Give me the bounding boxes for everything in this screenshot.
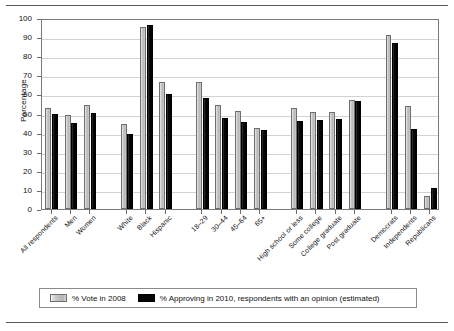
y-tick-label: 0	[2, 206, 32, 214]
x-tick-mark	[296, 210, 297, 214]
x-tick-label: 65+	[254, 214, 268, 228]
bar-approving-2010	[166, 94, 172, 209]
bar-vote-2008	[45, 108, 51, 209]
bar-approving-2010	[355, 101, 361, 209]
bar-approving-2010	[261, 130, 267, 209]
bar-approving-2010	[127, 134, 133, 209]
x-tick-mark	[391, 210, 392, 214]
bar-vote-2008	[196, 82, 202, 209]
y-tick-label: 10	[2, 187, 32, 195]
bar-vote-2008	[310, 112, 316, 209]
bar-approving-2010	[91, 113, 97, 209]
x-tick-mark	[240, 210, 241, 214]
bars-layer	[42, 20, 438, 209]
legend-item-approve: % Approving in 2010, respondents with an…	[138, 294, 380, 303]
y-tick-label: 70	[2, 72, 32, 80]
bar-vote-2008	[386, 35, 392, 209]
legend: % Vote in 2008 % Approving in 2010, resp…	[39, 288, 417, 308]
y-tick-label: 30	[2, 149, 32, 157]
bar-vote-2008	[291, 108, 297, 209]
x-tick-label: All respondents	[18, 214, 58, 254]
x-tick-mark	[315, 210, 316, 214]
bottom-divider	[6, 322, 448, 323]
legend-swatch-vote-icon	[50, 294, 67, 302]
x-tick-mark	[126, 210, 127, 214]
legend-swatch-approve-icon	[138, 294, 155, 302]
x-tick-label: Women	[75, 214, 97, 236]
legend-label-approve: % Approving in 2010, respondents with an…	[160, 294, 380, 303]
x-tick-mark	[145, 210, 146, 214]
bar-vote-2008	[349, 100, 355, 209]
y-tick-label: 60	[2, 91, 32, 99]
x-tick-mark	[51, 210, 52, 214]
x-tick-mark	[89, 210, 90, 214]
bar-vote-2008	[254, 128, 260, 209]
x-tick-mark	[410, 210, 411, 214]
bar-vote-2008	[159, 82, 165, 209]
x-tick-label: 30–44	[210, 214, 229, 233]
y-tick-label: 40	[2, 130, 32, 138]
bar-approving-2010	[203, 98, 209, 209]
x-tick-label: 18–29	[190, 214, 209, 233]
x-tick-label: Men	[63, 214, 78, 229]
bar-approving-2010	[241, 122, 247, 209]
y-tick-mark	[37, 210, 41, 211]
bar-approving-2010	[317, 120, 323, 209]
y-tick-label: 80	[2, 53, 32, 61]
x-tick-label: White	[116, 214, 134, 232]
x-tick-mark	[70, 210, 71, 214]
bar-approving-2010	[411, 129, 417, 209]
legend-item-vote: % Vote in 2008	[50, 294, 126, 303]
y-tick-label: 50	[2, 111, 32, 119]
legend-label-vote: % Vote in 2008	[72, 294, 126, 303]
bar-approving-2010	[71, 123, 77, 209]
y-tick-label: 90	[2, 34, 32, 42]
x-tick-label: Black	[136, 214, 153, 231]
bar-vote-2008	[405, 106, 411, 209]
bar-vote-2008	[329, 112, 335, 209]
x-tick-mark	[201, 210, 202, 214]
x-tick-mark	[165, 210, 166, 214]
x-tick-mark	[335, 210, 336, 214]
bar-vote-2008	[215, 105, 221, 209]
x-tick-label: 45–64	[229, 214, 248, 233]
x-tick-mark	[259, 210, 260, 214]
bar-approving-2010	[392, 43, 398, 209]
bar-vote-2008	[84, 105, 90, 209]
bar-vote-2008	[121, 124, 127, 209]
y-tick-label: 20	[2, 168, 32, 176]
bar-approving-2010	[336, 119, 342, 209]
bar-approving-2010	[52, 114, 58, 210]
bar-vote-2008	[235, 111, 241, 209]
bar-approving-2010	[147, 25, 153, 209]
bar-approving-2010	[431, 188, 437, 209]
figure: Percentage 0102030405060708090100 All re…	[0, 0, 454, 331]
bar-vote-2008	[424, 196, 430, 209]
bar-vote-2008	[65, 115, 71, 209]
y-tick-label: 100	[2, 15, 32, 23]
x-tick-mark	[221, 210, 222, 214]
bar-approving-2010	[297, 121, 303, 209]
top-divider	[6, 5, 448, 6]
x-tick-mark	[354, 210, 355, 214]
plot-area	[41, 19, 439, 210]
bar-vote-2008	[140, 27, 146, 209]
x-tick-mark	[429, 210, 430, 214]
bar-approving-2010	[222, 118, 228, 209]
